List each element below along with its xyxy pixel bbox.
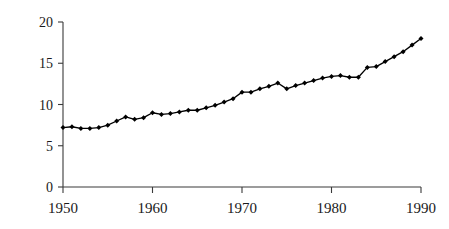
data-point-marker bbox=[159, 112, 164, 117]
data-point-marker bbox=[150, 110, 155, 115]
line-chart-figure: 05101520 19501960197019801990 bbox=[0, 0, 449, 229]
data-point-marker bbox=[105, 123, 110, 128]
data-point-marker bbox=[87, 126, 92, 131]
data-point-marker bbox=[96, 125, 101, 130]
data-point-marker bbox=[302, 81, 307, 86]
y-axis-tick-group bbox=[58, 22, 63, 187]
data-point-marker bbox=[293, 83, 298, 88]
data-point-marker bbox=[168, 111, 173, 116]
x-axis-tick-label: 1950 bbox=[48, 200, 78, 216]
x-axis-tick-label-group: 19501960197019801990 bbox=[48, 200, 436, 216]
y-axis-tick-label-group: 05101520 bbox=[39, 15, 53, 195]
data-point-marker bbox=[177, 109, 182, 114]
data-point-marker bbox=[257, 86, 262, 91]
data-point-marker bbox=[141, 115, 146, 120]
data-point-marker bbox=[204, 105, 209, 110]
data-point-marker bbox=[186, 108, 191, 113]
x-axis-tick-label: 1980 bbox=[317, 200, 347, 216]
data-point-marker bbox=[222, 100, 227, 105]
x-axis: 19501960197019801990 bbox=[48, 187, 436, 216]
data-point-marker bbox=[266, 84, 271, 89]
y-axis-tick-label: 5 bbox=[46, 139, 53, 154]
data-point-marker bbox=[195, 108, 200, 113]
data-point-marker bbox=[338, 73, 343, 78]
series-1-line bbox=[63, 39, 421, 129]
data-point-marker bbox=[69, 124, 74, 129]
data-point-marker bbox=[248, 90, 253, 95]
y-axis-tick-label: 20 bbox=[39, 15, 53, 30]
data-point-marker bbox=[374, 64, 379, 69]
data-point-marker bbox=[123, 114, 128, 119]
data-point-marker bbox=[383, 59, 388, 64]
data-series-group bbox=[61, 36, 424, 131]
y-axis-tick-label: 15 bbox=[39, 56, 53, 71]
y-axis: 05101520 bbox=[39, 15, 63, 195]
x-axis-tick-label: 1970 bbox=[227, 200, 257, 216]
data-point-marker bbox=[132, 117, 137, 122]
data-point-marker bbox=[61, 125, 66, 130]
x-axis-tick-group bbox=[63, 187, 421, 193]
data-point-marker bbox=[311, 78, 316, 83]
data-point-marker bbox=[392, 54, 397, 59]
y-axis-tick-label: 0 bbox=[46, 180, 53, 195]
y-axis-tick-label: 10 bbox=[39, 98, 53, 113]
data-point-marker bbox=[78, 126, 83, 131]
data-point-marker bbox=[329, 74, 334, 79]
x-axis-tick-label: 1990 bbox=[406, 200, 436, 216]
data-point-marker bbox=[347, 75, 352, 80]
data-point-marker bbox=[213, 103, 218, 108]
series-1-marker-group bbox=[61, 36, 424, 131]
data-point-marker bbox=[320, 76, 325, 81]
data-point-marker bbox=[114, 119, 119, 124]
chart-canvas: 05101520 19501960197019801990 bbox=[0, 0, 449, 229]
x-axis-tick-label: 1960 bbox=[138, 200, 168, 216]
